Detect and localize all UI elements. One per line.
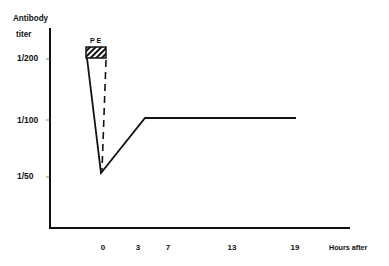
x-tick-13: 13 [228,243,237,252]
x-tick-3: 3 [136,243,140,252]
x-tick-19: 19 [291,243,300,252]
x-tick-0: 0 [101,243,105,252]
titer-line [87,58,296,173]
y-axis-label-line2: titer [16,29,31,39]
pe-label: PE [90,36,103,46]
y-tick-1-100: 1/100 [17,115,38,125]
y-tick-1-200: 1/200 [17,53,38,63]
y-tick-1-50: 1/50 [17,171,34,181]
x-axis-label: Hours after [329,243,367,253]
pe-box [86,47,106,58]
chart-plot [0,0,389,266]
y-axis-label-line1: Antibody [13,13,48,23]
dashed-line [102,60,106,170]
x-tick-7: 7 [166,243,170,252]
